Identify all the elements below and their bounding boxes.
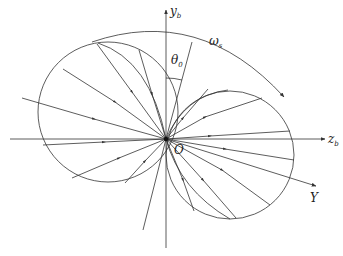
left-lobe-rays <box>22 43 166 230</box>
Y-label: Y <box>310 191 319 205</box>
z-b-label: zb <box>327 132 339 148</box>
theta-arc <box>166 78 182 80</box>
theta-label: θ0 <box>171 53 183 69</box>
y-b-label: yb <box>169 4 182 20</box>
left-lobe-circle <box>38 42 178 182</box>
origin-label: O <box>174 143 184 157</box>
right-lobe-rays <box>166 89 294 219</box>
omega-rotation-arc <box>92 31 284 97</box>
origin-point <box>164 137 168 141</box>
diagram-canvas: yb zb Y O θ0 ωs <box>0 0 343 256</box>
omega-label: ωs <box>209 34 223 50</box>
theta-reference-line <box>166 42 192 139</box>
